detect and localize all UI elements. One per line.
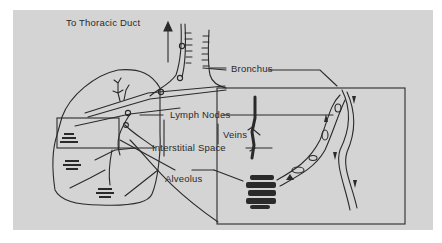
label-thoracic-duct: To Thoracic Duct <box>66 18 140 28</box>
alveolus-clusters <box>60 133 114 198</box>
label-veins: Veins <box>223 130 247 140</box>
flow-arrows-icon <box>286 96 357 188</box>
label-bronchus: Bronchus <box>231 64 273 74</box>
label-alveolus: Alveolus <box>165 174 203 184</box>
trachea-bronchus <box>150 24 226 96</box>
lymphatic-diagram <box>0 0 442 243</box>
thoracic-duct-arrow-icon <box>164 22 172 62</box>
label-interstitial-space: Interstitial Space <box>152 143 226 153</box>
label-lymph-nodes: Lymph Nodes <box>170 110 230 120</box>
